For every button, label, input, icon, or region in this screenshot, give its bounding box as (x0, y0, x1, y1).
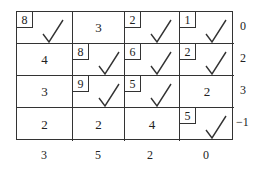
checkmark-icon (204, 50, 228, 76)
cost-value: 2 (180, 84, 234, 100)
nonbasic-cell: 2 (17, 108, 73, 141)
basic-cell: 2 (125, 12, 180, 44)
cost-value: 4 (17, 52, 72, 68)
checkmark-icon (41, 18, 65, 44)
checkmark-icon (204, 114, 228, 140)
cost-value: 3 (17, 84, 72, 100)
checkmark-icon (149, 82, 173, 108)
checkmark-icon (149, 18, 173, 44)
nonbasic-cell: 3 (73, 12, 125, 44)
nonbasic-cell: 4 (125, 108, 180, 141)
basic-cell: 8 (73, 44, 125, 76)
column-potential: 5 (78, 148, 118, 163)
checkmark-icon (149, 50, 173, 76)
checkmark-icon (97, 50, 121, 76)
checkmark-icon (204, 18, 228, 44)
allocation-value: 1 (180, 12, 196, 28)
cost-value: 2 (17, 117, 72, 133)
column-potential: 2 (130, 148, 170, 163)
checkmark-icon (97, 82, 121, 108)
column-potential: 3 (24, 148, 64, 163)
basic-cell: 8 (17, 12, 73, 44)
nonbasic-cell: 4 (17, 44, 73, 76)
allocation-value: 2 (125, 12, 141, 28)
row-potential: 2 (240, 51, 246, 66)
allocation-value: 8 (73, 44, 89, 60)
row-potential: 0 (240, 19, 246, 34)
cost-value: 2 (73, 117, 124, 133)
allocation-value: 6 (125, 44, 141, 60)
basic-cell: 5 (180, 108, 234, 141)
nonbasic-cell: 2 (73, 108, 125, 141)
cost-value: 4 (125, 117, 179, 133)
allocation-value: 5 (125, 76, 141, 92)
row-potential: −1 (236, 115, 249, 130)
allocation-value: 8 (17, 12, 33, 28)
basic-cell: 5 (125, 76, 180, 108)
row-potential: 3 (240, 83, 246, 98)
nonbasic-cell: 2 (180, 76, 234, 108)
basic-cell: 2 (180, 44, 234, 76)
column-potential: 0 (186, 148, 226, 163)
basic-cell: 9 (73, 76, 125, 108)
basic-cell: 1 (180, 12, 234, 44)
allocation-value: 9 (73, 76, 89, 92)
allocation-value: 2 (180, 44, 196, 60)
transport-table: 8321486239522245 (16, 11, 233, 140)
cost-value: 3 (73, 20, 124, 36)
allocation-value: 5 (180, 108, 196, 124)
basic-cell: 6 (125, 44, 180, 76)
nonbasic-cell: 3 (17, 76, 73, 108)
